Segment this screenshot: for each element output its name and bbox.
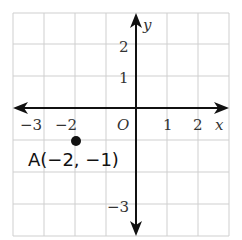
x-tick-1: 1 <box>163 116 173 134</box>
y-axis <box>130 13 142 236</box>
x-axis-label: x <box>215 116 224 134</box>
coordinate-plane: y x O −3 −2 1 2 2 1 −3 A(−2, −1) <box>0 0 242 240</box>
x-tick-2: 2 <box>193 116 203 134</box>
y-tick-2: 2 <box>119 38 129 56</box>
point-a-label: A(−2, −1) <box>28 149 119 170</box>
y-tick-1: 1 <box>119 69 129 87</box>
point-a-marker <box>71 136 81 146</box>
origin-label: O <box>117 116 129 134</box>
x-axis <box>13 102 229 114</box>
x-tick-neg3: −3 <box>20 116 42 134</box>
y-tick-neg3: −3 <box>107 198 129 216</box>
y-axis-label: y <box>142 16 152 34</box>
x-tick-neg2: −2 <box>55 116 77 134</box>
